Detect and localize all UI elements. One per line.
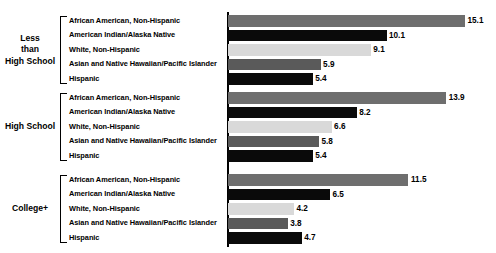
category-labels: African American, Non-HispanicAmerican I… — [69, 14, 217, 86]
bar-row: 13.9 — [228, 91, 465, 105]
bar-value-label: 5.9 — [323, 59, 334, 71]
category-label: Hispanic — [69, 149, 217, 163]
bar — [228, 44, 371, 56]
category-label: White, Non-Hispanic — [69, 43, 217, 57]
bar-row: 4.2 — [228, 202, 426, 216]
bar-value-label: 5.4 — [315, 73, 326, 85]
bar — [228, 73, 313, 85]
bar-row: 15.1 — [228, 14, 483, 28]
group-bracket — [60, 16, 67, 84]
group-bracket — [60, 93, 67, 161]
group-label-line: than — [0, 44, 60, 56]
group-label-line: Less — [0, 33, 60, 45]
category-label: Asian and Native Hawaiian/Pacific Island… — [69, 216, 217, 230]
category-label: Asian and Native Hawaiian/Pacific Island… — [69, 134, 217, 148]
group-label: High School — [0, 121, 60, 133]
bar-value-label: 10.1 — [389, 30, 405, 42]
bar — [228, 59, 321, 71]
bar — [228, 232, 302, 244]
bar-value-label: 4.7 — [304, 232, 315, 244]
bar-row: 9.1 — [228, 43, 483, 57]
category-label: American Indian/Alaska Native — [69, 187, 217, 201]
group-label-line: College+ — [0, 203, 60, 215]
bar-value-label: 11.5 — [411, 174, 426, 186]
group-label-line: High School — [0, 121, 60, 133]
category-label: African American, Non-Hispanic — [69, 173, 217, 187]
bar-value-label: 6.6 — [334, 121, 345, 133]
bar-row: 5.9 — [228, 57, 483, 71]
bar-value-label: 3.8 — [290, 218, 301, 230]
category-label: White, Non-Hispanic — [69, 120, 217, 134]
bar — [228, 121, 332, 133]
bar-value-label: 8.2 — [359, 107, 370, 119]
bar — [228, 174, 408, 186]
bar-value-label: 5.8 — [322, 136, 333, 148]
category-labels: African American, Non-HispanicAmerican I… — [69, 91, 217, 163]
bar-value-label: 6.5 — [333, 189, 344, 201]
group-label: College+ — [0, 203, 60, 215]
chart-group: LessthanHigh SchoolAfrican American, Non… — [0, 14, 496, 86]
bar-group: 11.56.54.23.84.7 — [228, 173, 426, 245]
bar — [228, 30, 387, 42]
bar-value-label: 13.9 — [449, 92, 465, 104]
category-label: African American, Non-Hispanic — [69, 14, 217, 28]
bar-value-label: 5.4 — [315, 150, 326, 162]
bar-chart: LessthanHigh SchoolAfrican American, Non… — [0, 0, 496, 253]
category-label: American Indian/Alaska Native — [69, 28, 217, 42]
bar-value-label: 15.1 — [468, 15, 484, 27]
chart-group: College+African American, Non-HispanicAm… — [0, 173, 496, 245]
bar-row: 6.6 — [228, 120, 465, 134]
bar-row: 10.1 — [228, 28, 483, 42]
group-label-line: High School — [0, 56, 60, 68]
bar-row: 11.5 — [228, 173, 426, 187]
bar — [228, 203, 294, 215]
category-label: African American, Non-Hispanic — [69, 91, 217, 105]
category-label: American Indian/Alaska Native — [69, 105, 217, 119]
bar-group: 13.98.26.65.85.4 — [228, 91, 465, 163]
chart-group: High SchoolAfrican American, Non-Hispani… — [0, 91, 496, 163]
bar-row: 3.8 — [228, 216, 426, 230]
bar-row: 6.5 — [228, 187, 426, 201]
bar-row: 5.4 — [228, 72, 483, 86]
bar — [228, 15, 465, 27]
bar — [228, 218, 288, 230]
category-label: Asian and Native Hawaiian/Pacific Island… — [69, 57, 217, 71]
bar-row: 5.4 — [228, 149, 465, 163]
category-label: Hispanic — [69, 231, 217, 245]
category-labels: African American, Non-HispanicAmerican I… — [69, 173, 217, 245]
bar — [228, 189, 330, 201]
bar — [228, 107, 357, 119]
group-bracket — [60, 175, 67, 243]
bar-row: 4.7 — [228, 231, 426, 245]
category-label: White, Non-Hispanic — [69, 202, 217, 216]
bar-row: 8.2 — [228, 105, 465, 119]
bar-row: 5.8 — [228, 134, 465, 148]
bar-group: 15.110.19.15.95.4 — [228, 14, 483, 86]
category-label: Hispanic — [69, 72, 217, 86]
bar — [228, 150, 313, 162]
bar-value-label: 4.2 — [296, 203, 307, 215]
bar-value-label: 9.1 — [373, 44, 384, 56]
bar — [228, 92, 446, 104]
bar — [228, 136, 319, 148]
group-label: LessthanHigh School — [0, 33, 60, 68]
